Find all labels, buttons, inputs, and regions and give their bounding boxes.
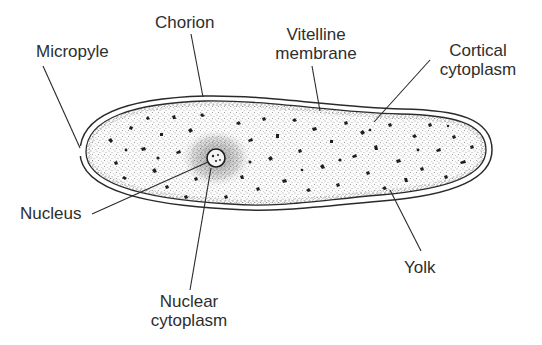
- leader-cortical: [374, 60, 430, 122]
- label-yolk: Yolk: [404, 258, 436, 277]
- leader-vitelline: [312, 66, 320, 111]
- label-vitelline-line2: membrane: [268, 44, 364, 63]
- label-vitelline-line1: Vitelline: [268, 25, 364, 44]
- label-vitelline-membrane: Vitelline membrane: [268, 25, 364, 63]
- label-cortical-cytoplasm: Cortical cytoplasm: [430, 41, 526, 79]
- leader-chorion: [191, 34, 203, 97]
- label-micropyle: Micropyle: [36, 42, 109, 61]
- egg-contents: [80, 95, 495, 215]
- label-cortical-line2: cytoplasm: [430, 60, 526, 79]
- leader-micropyle: [43, 66, 80, 148]
- label-cortical-line1: Cortical: [430, 41, 526, 60]
- nucleus-shape: [207, 149, 225, 167]
- label-chorion: Chorion: [155, 13, 215, 32]
- label-nuclear-cytoplasm: Nuclear cytoplasm: [142, 292, 236, 330]
- label-nucleus: Nucleus: [20, 204, 81, 223]
- insect-egg-diagram: Chorion Micropyle Vitelline membrane Cor…: [0, 0, 542, 345]
- label-nuclear-line1: Nuclear: [142, 292, 236, 311]
- label-nuclear-line2: cytoplasm: [142, 311, 236, 330]
